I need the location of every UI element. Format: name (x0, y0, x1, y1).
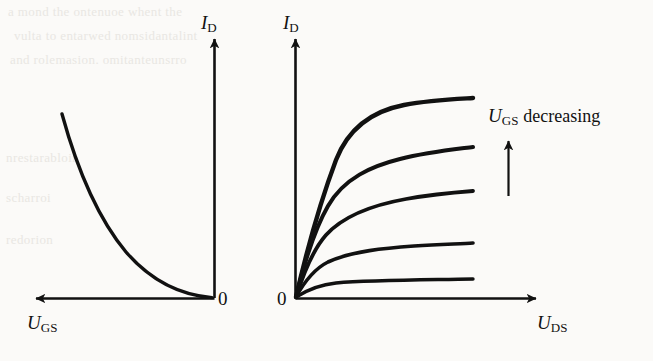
left-chart-group (36, 39, 215, 299)
output-curve-2 (296, 147, 473, 297)
right-chart-y-axis-label: ID (283, 12, 299, 36)
right-chart-x-axis-label: UDS (537, 312, 568, 336)
output-curve-4 (296, 243, 473, 297)
right-chart-origin-label: 0 (277, 288, 287, 310)
left-chart-y-axis-label: ID (201, 12, 217, 36)
transfer-curve (62, 114, 212, 298)
ugs-decreasing-annotation: UGS decreasing (488, 105, 600, 129)
characteristics-drawing (0, 0, 653, 361)
left-chart-x-axis-label: UGS (27, 312, 58, 336)
figure-canvas: a mond the ontenuoe whent the vulta to e… (0, 0, 653, 361)
right-chart-group (296, 39, 537, 299)
left-chart-origin-label: 0 (218, 288, 228, 310)
output-curve-5 (296, 279, 473, 297)
